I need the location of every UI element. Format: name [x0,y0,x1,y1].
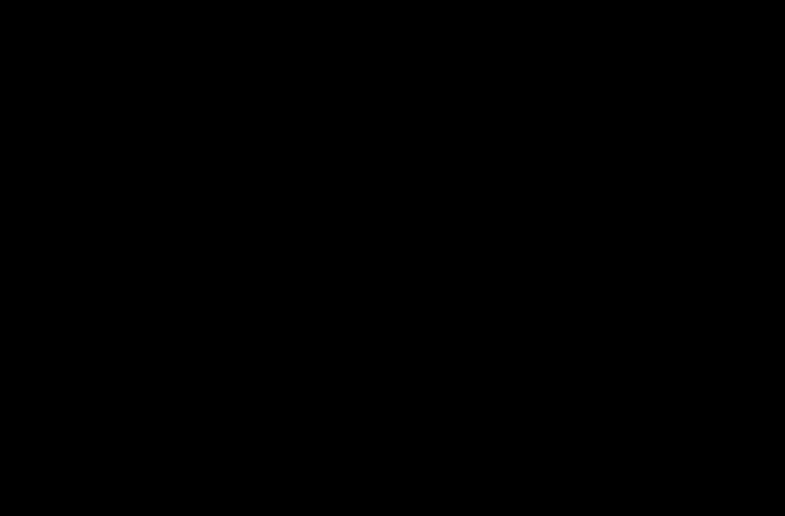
cad-viewport [0,0,785,516]
cad-drawing-canvas[interactable] [0,0,785,516]
paper-background [0,0,785,516]
